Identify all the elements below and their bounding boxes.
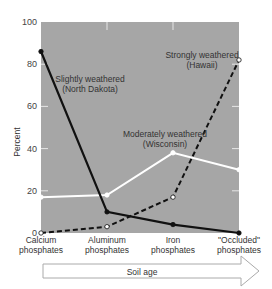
annotation-line1: Slightly weathered — [55, 74, 125, 84]
data-point — [105, 224, 109, 228]
chart: 020406080100 Percent Slightly weathered(… — [0, 0, 272, 289]
x-tick-label: phosphates — [151, 245, 195, 255]
x-tick-label: phosphates — [19, 245, 63, 255]
x-axis-labels: CalciumphosphatesAluminumphosphatesIronp… — [19, 235, 261, 255]
y-tick-label: 80 — [27, 59, 37, 69]
data-point — [39, 49, 43, 53]
data-point — [171, 222, 175, 226]
x-tick-label: "Occluded" — [218, 235, 260, 245]
x-tick-label: phosphates — [85, 245, 129, 255]
annotation-line2: (North Dakota) — [62, 84, 118, 94]
y-axis-label: Percent — [12, 127, 22, 157]
annotation-line2: (Wisconsin) — [143, 139, 188, 149]
x-tick-label: Aluminum — [88, 235, 126, 245]
y-tick-label: 20 — [27, 186, 37, 196]
x-axis-label: Soil age — [127, 267, 158, 277]
data-point — [105, 193, 109, 197]
y-tick-label: 100 — [22, 17, 37, 27]
data-point — [105, 210, 109, 214]
x-tick-label: Iron — [166, 235, 181, 245]
y-tick-label: 60 — [27, 101, 37, 111]
y-tick-label: 40 — [27, 144, 37, 154]
annotation-line1: Strongly weathered — [165, 50, 239, 60]
x-tick-label: phosphates — [217, 245, 261, 255]
data-point — [171, 151, 175, 155]
soil-age-arrow: Soil age — [43, 256, 259, 286]
data-point — [237, 168, 241, 172]
annotation-line1: Moderately weathered — [123, 129, 207, 139]
svg-text:Percent: Percent — [12, 127, 22, 157]
annotation-line2: (Hawaii) — [186, 60, 217, 70]
x-tick-label: Calcium — [26, 235, 57, 245]
data-point — [171, 195, 175, 199]
data-point — [39, 195, 43, 199]
